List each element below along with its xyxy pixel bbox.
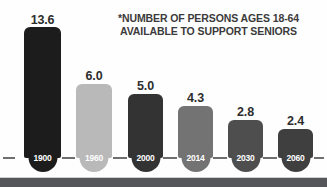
year-label: 1900 xyxy=(33,153,51,163)
chart-title-line-2: AVAILABLE TO SUPPORT SENIORS xyxy=(96,25,321,38)
bar-value-label: 4.3 xyxy=(187,91,204,105)
year-circle: 2060 xyxy=(281,143,310,172)
baseline-dash xyxy=(113,157,127,159)
year-circle: 2014 xyxy=(181,143,210,172)
year-label: 1960 xyxy=(85,153,103,163)
year-circle: 2030 xyxy=(231,143,260,172)
bar-column: 13.6 1900 xyxy=(24,0,61,187)
infographic-bar-chart: 13.6 1900 6.0 1960 5.0 2000 4.3 xyxy=(0,0,327,187)
baseline-dash xyxy=(163,157,177,159)
chart-title-line-1: *NUMBER OF PERSONS AGES 18-64 xyxy=(96,12,321,25)
bar-value-label: 5.0 xyxy=(137,79,154,93)
year-label: 2060 xyxy=(286,153,304,163)
year-circle: 1900 xyxy=(28,143,57,172)
year-label: 2030 xyxy=(236,153,254,163)
year-label: 2000 xyxy=(136,153,154,163)
baseline-dash xyxy=(3,157,15,159)
bar-value-label: 13.6 xyxy=(31,13,55,27)
baseline-dash xyxy=(213,157,227,159)
bar-value-label: 2.8 xyxy=(237,105,254,119)
baseline-dash xyxy=(263,157,277,159)
year-circle: 2000 xyxy=(131,143,160,172)
footer-strip xyxy=(0,178,327,187)
chart-title: *NUMBER OF PERSONS AGES 18-64 AVAILABLE … xyxy=(96,12,321,38)
baseline-dash xyxy=(62,157,75,159)
bar-shape xyxy=(24,27,61,158)
bar-value-label: 6.0 xyxy=(86,69,103,83)
baseline-dash xyxy=(314,157,324,159)
year-label: 2014 xyxy=(186,153,204,163)
bar-value-label: 2.4 xyxy=(287,114,304,128)
year-circle: 1960 xyxy=(80,143,109,172)
